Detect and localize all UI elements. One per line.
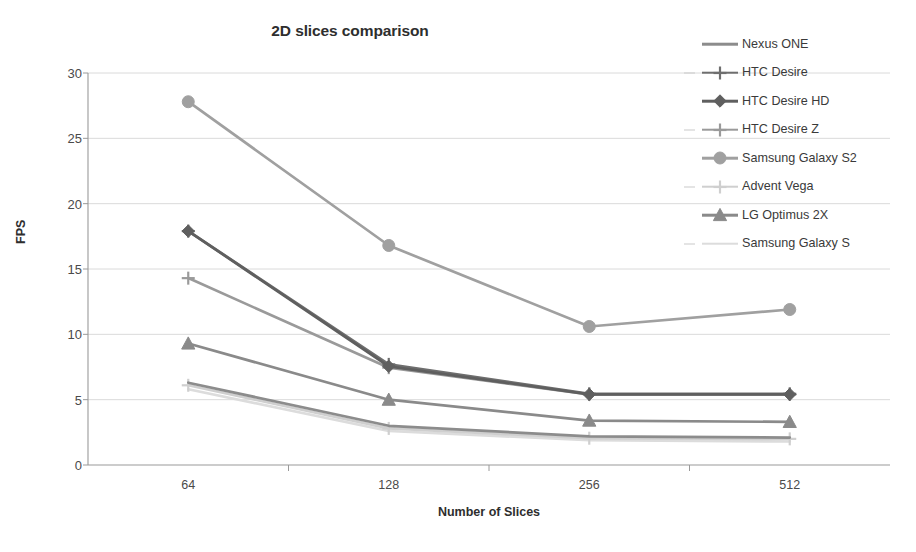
y-axis-title: FPS [14,220,28,244]
legend-marker-plus-icon [711,178,729,196]
legend-marker-diamond-icon [711,92,729,110]
legend-marker-circle-icon [711,149,729,167]
legend-leader-dash [684,186,695,187]
legend-key-none-icon [700,237,740,251]
legend-item[interactable]: LG Optimus 2X [700,201,916,230]
y-tick-label: 20 [48,196,82,211]
legend-item[interactable]: Samsung Galaxy S [700,230,916,259]
data-point-marker [182,272,195,285]
legend-leader-dash [684,129,695,130]
y-tick-label: 30 [48,66,82,81]
legend-line-swatch [702,43,738,46]
series-line [188,344,790,422]
data-point-marker [182,96,194,108]
data-point-marker [583,432,596,445]
legend-line-swatch [702,242,738,245]
legend-leader-dash [684,243,695,244]
legend-key-none-icon [700,37,740,51]
legend-label: Advent Vega [742,180,813,193]
legend-label: LG Optimus 2X [742,209,828,222]
data-point-marker [714,66,727,79]
legend-marker-triangle-icon [711,206,729,224]
legend-label: Nexus ONE [742,38,809,51]
data-point-marker [383,239,395,251]
legend-item[interactable]: Samsung Galaxy S2 [700,144,916,173]
y-tick-label: 15 [48,262,82,277]
data-point-marker [182,337,195,349]
data-point-marker [583,320,595,332]
chart-container: 2D slices comparison FPS 302520151050 64… [0,0,916,552]
legend-leader-dash [684,72,695,73]
y-tick-label: 5 [48,392,82,407]
data-point-marker [714,123,727,136]
y-tick-label: 10 [48,327,82,342]
legend-label: Samsung Galaxy S2 [742,152,857,165]
legend-key-circle-icon [700,151,740,165]
x-tick-label: 128 [378,478,399,492]
y-tick-label: 25 [48,131,82,146]
chart-legend: Nexus ONEHTC DesireHTC Desire HDHTC Desi… [700,30,916,258]
legend-key-diamond-icon [700,94,740,108]
legend-marker-plus-icon [711,121,729,139]
data-point-marker [714,180,727,193]
legend-key-plus-icon [700,180,740,194]
legend-label: HTC Desire HD [742,95,829,108]
chart-title: 2D slices comparison [0,22,700,40]
legend-label: HTC Desire Z [742,123,819,136]
legend-item[interactable]: HTC Desire HD [700,87,916,116]
data-point-marker [713,209,726,221]
legend-marker-plus-icon [711,64,729,82]
data-point-marker [784,388,796,400]
x-tick-label: 256 [579,478,600,492]
x-axis-title: Number of Slices [88,505,890,519]
legend-item[interactable]: Advent Vega [700,173,916,202]
legend-label: HTC Desire [742,66,808,79]
y-tick-label: 0 [48,458,82,473]
x-tick-label: 64 [181,478,195,492]
legend-key-plus-icon [700,123,740,137]
y-axis-tick-labels: 302520151050 [44,0,82,552]
data-point-marker [583,388,595,400]
data-point-marker [784,304,796,316]
data-point-marker [714,152,726,164]
legend-item[interactable]: Nexus ONE [700,30,916,59]
legend-key-triangle-icon [700,208,740,222]
legend-label: Samsung Galaxy S [742,237,850,250]
legend-key-plus-icon [700,66,740,80]
series-line [188,278,790,394]
x-tick-label: 512 [779,478,800,492]
legend-item[interactable]: HTC Desire [700,59,916,88]
legend-item[interactable]: HTC Desire Z [700,116,916,145]
data-point-marker [714,95,726,107]
